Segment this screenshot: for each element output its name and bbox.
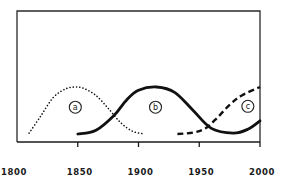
x-axis-ticks <box>78 142 260 147</box>
series-label-a: a <box>69 101 81 113</box>
svg-text:b: b <box>153 103 158 112</box>
plot-frame <box>17 11 260 142</box>
series-line-a <box>29 87 145 134</box>
svg-text:a: a <box>73 103 78 112</box>
x-tick-label: 2000 <box>249 167 275 177</box>
x-tick-label: 1950 <box>188 167 214 177</box>
chart: 18001850190019502000 abc <box>0 0 286 186</box>
series-label-b: b <box>150 101 162 113</box>
series-line-b <box>78 87 260 134</box>
series-lines <box>29 87 260 134</box>
x-tick-label: 1900 <box>127 167 153 177</box>
x-axis-tick-labels: 18001850190019502000 <box>1 167 275 177</box>
x-tick-label: 1850 <box>67 167 93 177</box>
x-tick-label: 1800 <box>1 167 27 177</box>
series-label-c: c <box>242 100 254 112</box>
svg-text:c: c <box>246 102 250 111</box>
